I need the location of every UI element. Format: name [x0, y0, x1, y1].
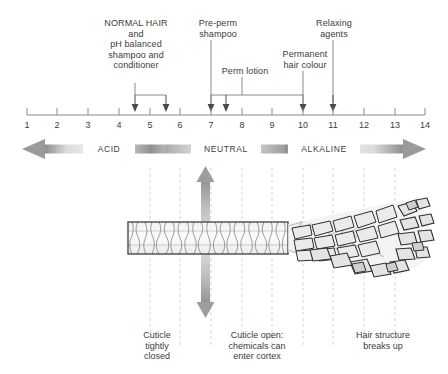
- tick-label-12: 12: [354, 120, 374, 130]
- arrow-ph-5-5: [163, 95, 170, 112]
- tick-label-5: 5: [140, 120, 160, 130]
- caption-cuticle-open: Cuticle open: chemicals can enter cortex: [214, 330, 300, 362]
- tick-label-7: 7: [201, 120, 221, 130]
- tick-label-2: 2: [47, 120, 67, 130]
- tick-label-10: 10: [293, 120, 313, 130]
- arrow-ph-7: [223, 95, 230, 112]
- axis-pointer-arrows: [132, 95, 337, 112]
- hair-shaft-illustration: [128, 198, 434, 277]
- label-relaxing-agents: Relaxing agents: [300, 18, 368, 39]
- tick-label-9: 9: [262, 120, 282, 130]
- zone-label-alkaline: ALKALINE: [288, 144, 360, 154]
- zone-label-neutral: NEUTRAL: [191, 144, 261, 154]
- label-permanent-hair-colour: Permanent hair colour: [266, 49, 344, 70]
- caption-hair-structure-breaks-up: Hair structure breaks up: [340, 330, 426, 351]
- caption-cuticle-tightly-closed: Cuticle tightly closed: [128, 330, 186, 362]
- tick-label-14: 14: [415, 120, 435, 130]
- label-normal-hair: NORMAL HAIR and pH balanced shampoo and …: [83, 18, 189, 71]
- tick-label-3: 3: [78, 120, 98, 130]
- tick-label-11: 11: [323, 120, 343, 130]
- tick-label-4: 4: [109, 120, 129, 130]
- arrow-ph-4-5: [132, 95, 139, 112]
- ph-scale-diagram: [0, 0, 448, 374]
- label-pre-perm-shampoo: Pre-perm shampoo: [182, 18, 254, 39]
- tick-label-6: 6: [170, 120, 190, 130]
- tick-label-1: 1: [17, 120, 37, 130]
- zone-label-acid: ACID: [83, 144, 135, 154]
- tick-label-8: 8: [232, 120, 252, 130]
- tick-label-13: 13: [385, 120, 405, 130]
